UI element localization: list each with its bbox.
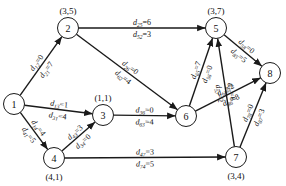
edge-label-4-7: d47=3d74=5 (136, 147, 154, 169)
node-coord-label: (3,4) (227, 171, 244, 181)
node-label: 3 (101, 110, 106, 121)
edge-1-2 (20, 37, 62, 96)
edge-label-2-6: d26=0d62=4 (113, 59, 141, 87)
edge-label-rev: d52=3 (133, 30, 151, 40)
edge-label-rev: d87=3 (251, 107, 267, 127)
edge-label-rev: d63=4 (135, 117, 153, 127)
node-label: 4 (52, 153, 57, 164)
edge-label-1-2: d12=0d21=7 (28, 53, 56, 80)
node-coord-label: (1,1) (94, 93, 111, 103)
node-7: 7(3,4) (226, 147, 247, 181)
edge-label-1-4: d14=4d41=5 (19, 118, 47, 146)
edge-2-6 (76, 34, 177, 109)
node-label: 5 (214, 23, 219, 34)
edge-label-rev: d74=5 (136, 159, 154, 169)
node-1: 1 (4, 94, 25, 115)
node-label: 2 (66, 23, 71, 34)
edge-label-6-5: d65=7d56=0 (189, 60, 216, 84)
node-label: 6 (184, 111, 189, 122)
edge-label-fwd: d47=3 (136, 147, 154, 157)
edge-label-3-6: d36=0d63=4 (135, 105, 153, 127)
edge-label-fwd: d36=0 (135, 105, 153, 115)
network-diagram: d12=0d21=7d13=1d31=4d14=4d41=5d25=6d52=3… (0, 0, 286, 186)
node-label: 1 (12, 99, 17, 110)
edge-label-7-8: d78=0d87=3 (240, 103, 267, 128)
node-label: 7 (234, 152, 239, 163)
node-2: 2(3,5) (58, 6, 79, 39)
node-8: 8 (260, 63, 281, 84)
node-coord-label: (3,5) (59, 6, 76, 16)
edge-label-rev: d57=2 (213, 84, 226, 103)
edge-label-rev: d31=4 (48, 110, 67, 122)
node-6: 6 (176, 106, 197, 127)
node-coord-label: (4,1) (45, 172, 62, 182)
node-label: 8 (268, 68, 273, 79)
edge-label-fwd: d25=6 (133, 18, 151, 28)
node-3: 3(1,1) (93, 93, 114, 126)
node-5: 5(3,7) (206, 6, 227, 39)
edge-label-2-5: d25=6d52=3 (133, 18, 151, 40)
node-coord-label: (3,7) (207, 6, 224, 16)
node-4: 4(4,1) (44, 148, 65, 182)
